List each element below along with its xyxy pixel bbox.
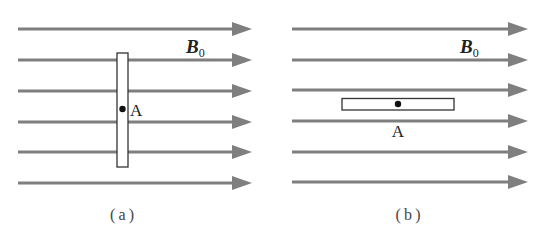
arrowhead-icon	[508, 22, 528, 36]
panel-b-rod	[342, 99, 454, 111]
arrowhead-icon	[232, 115, 252, 129]
panel-a-rod	[117, 53, 128, 167]
point-a-dot-b	[395, 101, 401, 107]
caption-a: ( a )	[110, 206, 134, 224]
arrowhead-icon	[232, 176, 252, 190]
arrowhead-icon	[232, 145, 252, 159]
arrowhead-icon	[232, 22, 252, 36]
arrowhead-icon	[508, 53, 528, 67]
caption-b: ( b )	[395, 206, 420, 224]
point-a-dot	[119, 106, 125, 112]
field-label-b0-b: B0	[459, 36, 479, 60]
arrowhead-icon	[232, 53, 252, 67]
point-a-label-b: A	[392, 122, 405, 141]
arrowhead-icon	[508, 145, 528, 159]
point-a-label: A	[130, 101, 143, 120]
arrowhead-icon	[508, 83, 528, 97]
magnetic-field-diagram: A B0 ( a ) A B0 ( b )	[0, 0, 548, 248]
arrowhead-icon	[508, 175, 528, 189]
field-label-b0-a: B0	[185, 36, 205, 60]
arrowhead-icon	[508, 114, 528, 128]
arrowhead-icon	[232, 84, 252, 98]
